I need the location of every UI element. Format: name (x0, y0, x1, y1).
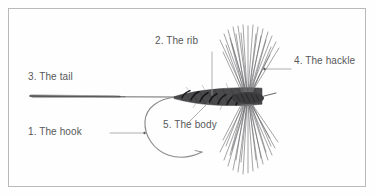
leader-dot-hook (143, 132, 145, 134)
hackle-collar (232, 92, 264, 104)
fly-diagram-figure: 1. The hook 2. The rib 3. The tail 4. Th… (0, 0, 375, 196)
leader-dot-body (207, 102, 209, 104)
callout-label-rib: 2. The rib (155, 35, 198, 47)
callout-label-hackle: 4. The hackle (294, 55, 355, 67)
fly-illustration (0, 0, 375, 196)
callout-label-body: 5. The body (163, 119, 217, 131)
leader-dot-hackle (263, 68, 265, 70)
callout-label-tail: 3. The tail (28, 71, 73, 83)
callout-label-hook: 1. The hook (28, 126, 82, 138)
